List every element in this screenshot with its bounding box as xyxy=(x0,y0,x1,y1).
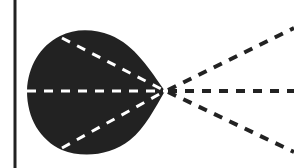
ray-diagram xyxy=(0,0,294,168)
